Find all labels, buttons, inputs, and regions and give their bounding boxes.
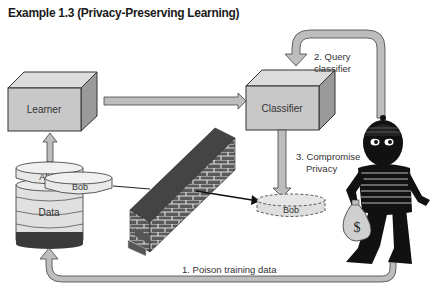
step2-label-line1: 2. Query <box>314 51 351 62</box>
arrow-data-to-learner <box>43 133 57 162</box>
arrow-classifier-to-bob <box>273 130 291 197</box>
data-label: Data <box>38 207 60 218</box>
step3-label-line2: Privacy <box>306 163 337 174</box>
burglar-icon <box>346 115 430 264</box>
classifier-box: Classifier <box>246 70 335 130</box>
step3-label-line1: 3. Compromise <box>296 151 360 162</box>
diagram-canvas: Learner Data Alice Bob <box>0 0 439 296</box>
bob-record: Bob <box>45 172 112 194</box>
leaked-bob-record: Bob <box>257 194 325 217</box>
brick-wall-icon <box>128 128 235 256</box>
learner-label: Learner <box>27 104 62 115</box>
step2-label-line2: classifier <box>314 63 351 74</box>
bob-label: Bob <box>72 182 88 192</box>
step1-label: 1. Poison training data <box>182 264 277 275</box>
bob-to-wall-line <box>113 186 150 189</box>
arrow-learner-to-classifier <box>104 93 246 109</box>
learner-box: Learner <box>8 72 97 131</box>
money-symbol: $ <box>354 220 361 235</box>
classifier-label: Classifier <box>261 103 303 114</box>
leaked-bob-label: Bob <box>283 205 299 215</box>
